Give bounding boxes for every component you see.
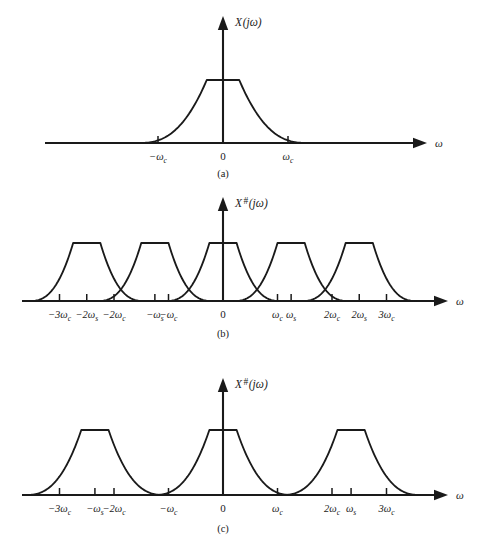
tick-label-main: 0: [220, 308, 226, 320]
origin-label: 0: [220, 308, 226, 320]
x-axis-tick-label: −ωs: [86, 503, 104, 517]
panel-b: ωX#(jω)−3ωc−2ωs−2ωc−ωs−ωc0ωcωs2ωc2ωs3ωc(…: [0, 185, 478, 350]
x-axis-tick-label: 3ωc: [377, 503, 395, 517]
tick-label-main: −2ω: [75, 309, 95, 320]
x-axis-tick-label: ωs: [286, 309, 296, 323]
y-axis-label-superscript: #: [243, 196, 248, 206]
tick-label-main: 3ω: [377, 503, 391, 514]
tick-label-subscript: c: [280, 314, 284, 323]
x-axis-tick-label: −3ωc: [48, 309, 72, 323]
y-axis-label-base: X: [234, 197, 243, 209]
tick-label-subscript: c: [391, 508, 395, 517]
tick-label-subscript: s: [353, 508, 356, 517]
tick-label-main: ω: [346, 503, 353, 514]
x-axis-tick-label: ωc: [283, 151, 294, 165]
spectrum-replica: [234, 243, 348, 301]
origin-label: 0: [220, 502, 226, 514]
tick-label-subscript: c: [391, 314, 395, 323]
tick-label-subscript: c: [174, 508, 178, 517]
tick-label-subscript: c: [337, 314, 341, 323]
panel-caption: (a): [217, 168, 229, 180]
tick-label-subscript: c: [122, 314, 126, 323]
tick-label-main: −3ω: [48, 309, 68, 320]
x-axis-tick-label: −2ωc: [102, 503, 126, 517]
x-axis-tick-label: 2ωc: [324, 309, 341, 323]
tick-label-main: −3ω: [48, 503, 68, 514]
tick-label-subscript: c: [290, 156, 294, 165]
tick-label-main: ω: [272, 309, 279, 320]
tick-label-subscript: c: [174, 314, 178, 323]
tick-label-subscript: s: [293, 314, 296, 323]
panel-c: ωX#(jω)−3ωc−ωs−2ωc−ωc0ωc2ωcωs3ωc(c): [0, 350, 478, 541]
figure-root: ωX(jω)−ωc0ωc(a) ωX#(jω)−3ωc−2ωs−2ωc−ωs−ω…: [0, 0, 478, 541]
x-axis-tick-label: −2ωs: [75, 309, 98, 323]
tick-label-main: −ω: [160, 309, 175, 320]
tick-label-subscript: c: [122, 508, 126, 517]
x-axis-tick-label: ωc: [272, 309, 283, 323]
y-axis-label-argument: (jω): [243, 16, 262, 29]
x-axis-tick-label: −3ωc: [48, 503, 72, 517]
x-axis-tick-label: −ωc: [160, 503, 179, 517]
tick-label-main: 2ω: [351, 309, 364, 320]
y-axis-label-superscript: #: [243, 377, 248, 387]
tick-label-subscript: c: [164, 156, 168, 165]
y-axis-label-argument: (jω): [249, 197, 268, 210]
tick-label-subscript: s: [95, 314, 98, 323]
spectrum-replica: [98, 243, 212, 301]
y-axis-arrowhead: [218, 16, 228, 30]
tick-label-main: 0: [220, 502, 226, 514]
tick-label-subscript: c: [68, 508, 72, 517]
x-axis-variable-label: ω: [456, 295, 464, 307]
spectrum-replica: [25, 430, 165, 495]
x-axis-tick-label: ωc: [272, 503, 283, 517]
tick-label-main: ω: [286, 309, 293, 320]
x-axis-tick-label: 3ωc: [377, 309, 395, 323]
tick-label-main: −2ω: [102, 503, 122, 514]
x-axis-variable-label: ω: [456, 489, 464, 501]
tick-label-main: −ω: [160, 503, 175, 514]
tick-label-subscript: s: [364, 314, 367, 323]
y-axis-arrowhead: [218, 378, 228, 392]
x-axis-tick-label: 2ωc: [324, 503, 341, 517]
y-axis-label: X#(jω): [234, 196, 268, 210]
x-axis-arrowhead: [434, 296, 448, 306]
tick-label-main: 2ω: [324, 503, 337, 514]
tick-label-main: 0: [220, 150, 226, 162]
tick-label-main: −2ω: [102, 309, 122, 320]
y-axis-arrowhead: [218, 197, 228, 211]
tick-label-main: −ω: [149, 151, 164, 162]
tick-label-subscript: c: [280, 508, 284, 517]
y-axis-label: X#(jω): [234, 377, 268, 391]
spectrum-replica: [281, 430, 421, 495]
tick-label-main: 3ω: [377, 309, 391, 320]
panel-a: ωX(jω)−ωc0ωc(a): [0, 0, 478, 185]
y-axis-label: X(jω): [234, 16, 262, 29]
panel-c-plot: ωX#(jω)−3ωc−ωs−2ωc−ωc0ωc2ωcωs3ωc(c): [0, 350, 478, 541]
y-axis-label-base: X: [234, 378, 243, 390]
x-axis-tick-label: −2ωc: [102, 309, 126, 323]
tick-label-subscript: c: [337, 508, 341, 517]
x-axis-variable-label: ω: [435, 137, 443, 149]
panel-b-plot: ωX#(jω)−3ωc−2ωs−2ωc−ωs−ωc0ωcωs2ωc2ωs3ωc(…: [0, 185, 478, 350]
panel-caption: (b): [217, 328, 230, 340]
tick-label-main: −ω: [86, 503, 101, 514]
x-axis-tick-label: 2ωs: [351, 309, 367, 323]
origin-label: 0: [220, 150, 226, 162]
x-axis-tick-label: −ωc: [149, 151, 168, 165]
x-axis-arrowhead: [413, 138, 427, 148]
y-axis-label-argument: (jω): [249, 378, 268, 391]
x-axis-arrowhead: [434, 490, 448, 500]
tick-label-main: ω: [272, 503, 279, 514]
tick-label-main: 2ω: [324, 309, 337, 320]
tick-label-main: ω: [283, 151, 290, 162]
tick-label-subscript: c: [68, 314, 72, 323]
panel-a-plot: ωX(jω)−ωc0ωc(a): [0, 0, 478, 185]
spectrum-replica: [302, 243, 416, 301]
tick-label-main: −ω: [146, 309, 161, 320]
x-axis-tick-label: ωs: [346, 503, 356, 517]
panel-caption: (c): [217, 523, 229, 535]
spectrum-replica: [30, 243, 144, 301]
